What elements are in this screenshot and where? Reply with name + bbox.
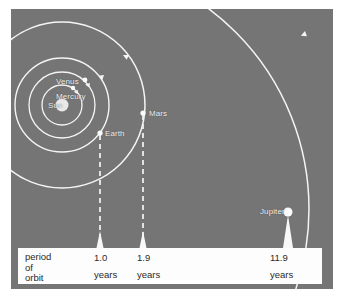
mars-period-unit: years xyxy=(137,270,160,281)
jupiter-period-value: 11.9 xyxy=(270,253,288,264)
earth-period-unit: years xyxy=(94,270,117,281)
mars-period-value: 1.9 xyxy=(137,253,150,264)
jupiter-pointer xyxy=(283,215,293,248)
earth-label: Earth xyxy=(105,129,125,138)
venus-body xyxy=(83,78,88,83)
diagram-root: Sun Mercury Venus Earth Mars Jupiter per… xyxy=(0,0,346,297)
legend-title: period of orbit xyxy=(25,252,51,284)
jupiter-period-unit: years xyxy=(270,270,293,281)
earth-body xyxy=(97,130,102,135)
jupiter-label: Jupiter xyxy=(260,207,285,216)
earth-direction-arrow-icon xyxy=(99,73,106,80)
orbit-diagram-svg xyxy=(11,9,333,289)
mars-label: Mars xyxy=(149,109,167,118)
earth-period-value: 1.0 xyxy=(94,253,107,264)
legend-title-line-1: period xyxy=(25,252,51,263)
sun-label: Sun xyxy=(48,101,63,110)
jupiter-direction-arrow-icon xyxy=(301,30,308,37)
mars-orbit xyxy=(11,22,145,188)
solar-system-panel: Sun Mercury Venus Earth Mars Jupiter per… xyxy=(11,9,333,289)
legend-box: period of orbit 1.0 years 1.9 years 11.9… xyxy=(18,248,322,284)
mars-body xyxy=(140,110,145,115)
mercury-body xyxy=(71,86,75,90)
venus-label: Venus xyxy=(56,77,79,86)
earth-pointer xyxy=(97,231,104,248)
mars-pointer xyxy=(140,231,147,248)
mercury-label: Mercury xyxy=(56,92,86,101)
jupiter-orbit xyxy=(11,9,309,289)
legend-title-line-3: orbit xyxy=(25,273,51,284)
